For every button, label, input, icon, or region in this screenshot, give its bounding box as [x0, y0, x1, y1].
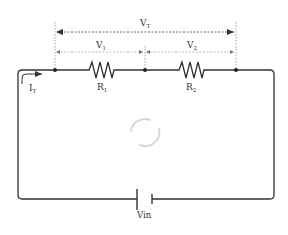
- node-3: [234, 68, 238, 72]
- label-vt: VT: [139, 18, 151, 29]
- node-2: [143, 68, 147, 72]
- battery-vin: [137, 189, 152, 210]
- label-vin: Vin: [136, 210, 152, 220]
- circuit-wire: [18, 70, 274, 199]
- loading-spinner-icon: [131, 119, 159, 146]
- dimension-extension-lines: [55, 22, 236, 69]
- resistor-r1: [86, 62, 116, 78]
- resistor-r2: [176, 62, 206, 78]
- node-1: [53, 68, 57, 72]
- label-r2: R2: [186, 82, 196, 93]
- label-current: IT: [29, 83, 37, 94]
- label-v1: V1: [95, 40, 106, 51]
- series-circuit-diagram: VT V1 V2 R1 R2 IT Vin: [0, 0, 288, 235]
- label-v2: V2: [186, 40, 197, 51]
- label-r1: R1: [97, 82, 107, 93]
